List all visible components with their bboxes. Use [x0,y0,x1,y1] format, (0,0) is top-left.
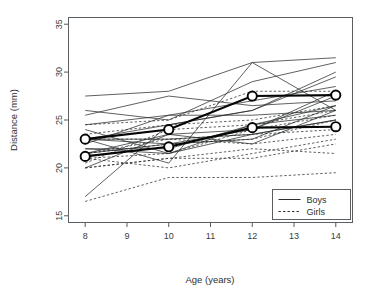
y-tick-label: 15 [54,211,64,221]
highlight-lower-marker [331,122,340,131]
y-tick-label: 30 [54,67,64,77]
highlight-lower-marker [248,123,257,132]
highlight-upper-marker [164,125,173,134]
y-tick-label: 20 [54,163,64,173]
legend-label-boys: Boys [307,195,328,205]
highlight-upper-marker [248,91,257,100]
x-axis-ticks: 891011121314 [83,223,341,241]
x-tick-label: 11 [206,231,215,241]
highlight-lower-marker [164,142,173,151]
x-tick-label: 13 [289,231,299,241]
x-tick-label: 12 [247,231,257,241]
x-tick-label: 8 [83,231,88,241]
y-axis-title: Distance (mm) [8,89,19,151]
x-tick-label: 10 [164,231,174,241]
x-tick-label: 14 [331,231,341,241]
highlight-lower-marker [81,152,90,161]
orthodont-growth-chart: 891011121314 1520253035 Age (years) Dist… [0,0,374,294]
highlight-upper-marker [331,90,340,99]
series-lines-layer [85,58,336,202]
highlight-upper-marker [81,135,90,144]
x-tick-label: 9 [124,231,129,241]
x-axis-title: Age (years) [185,274,234,285]
subject-line-m10 [85,58,336,96]
legend-label-girls: Girls [307,207,326,217]
chart-legend: BoysGirls [273,190,351,220]
chart-figure: 891011121314 1520253035 Age (years) Dist… [0,0,374,294]
y-tick-label: 25 [54,115,64,125]
y-tick-label: 35 [54,19,64,29]
subject-line-f04 [85,106,336,135]
y-axis-ticks: 1520253035 [54,19,69,221]
